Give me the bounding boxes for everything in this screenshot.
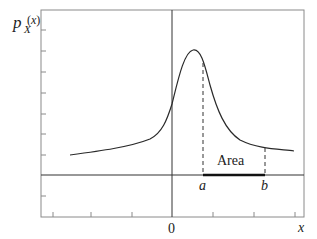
a-label: a	[199, 178, 206, 193]
b-label: b	[261, 178, 268, 193]
y-ticks	[41, 30, 46, 196]
ylabel-arg: (x)	[27, 13, 40, 27]
ylabel-main: p	[12, 13, 22, 32]
x-tick-zero: 0	[168, 221, 175, 236]
x-ticks	[53, 212, 295, 217]
density-chart: p X (x) Area a b 0 x	[0, 0, 317, 239]
area-label: Area	[217, 153, 245, 168]
density-curve	[70, 50, 294, 155]
xlabel: x	[297, 220, 305, 235]
